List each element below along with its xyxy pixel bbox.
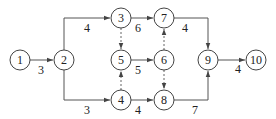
node-8: 8 bbox=[154, 90, 174, 110]
edge-label-8-9: 7 bbox=[192, 103, 198, 117]
edge-8-9 bbox=[174, 71, 208, 100]
svg-text:5: 5 bbox=[118, 53, 124, 67]
svg-text:4: 4 bbox=[118, 93, 124, 107]
node-9: 9 bbox=[198, 50, 218, 70]
svg-text:9: 9 bbox=[205, 53, 211, 67]
edge-2-4 bbox=[64, 70, 110, 100]
node-6: 6 bbox=[154, 50, 174, 70]
node-7: 7 bbox=[154, 8, 174, 28]
edge-7-9 bbox=[174, 18, 208, 49]
edge-label-4-8: 4 bbox=[135, 103, 141, 117]
node-10: 10 bbox=[246, 50, 266, 70]
network-diagram: 3 4 3 6 5 4 4 7 4 bbox=[0, 0, 276, 119]
node-1: 1 bbox=[10, 50, 30, 70]
node-3: 3 bbox=[111, 8, 131, 28]
edge-label-7-9: 4 bbox=[182, 21, 188, 35]
node-4: 4 bbox=[111, 90, 131, 110]
svg-text:3: 3 bbox=[118, 11, 124, 25]
edge-label-2-4: 3 bbox=[84, 103, 90, 117]
edge-label-9-10: 4 bbox=[235, 62, 241, 76]
svg-text:8: 8 bbox=[161, 93, 167, 107]
edge-label-2-3: 4 bbox=[84, 21, 90, 35]
edge-label-5-6: 5 bbox=[135, 63, 141, 77]
svg-text:10: 10 bbox=[250, 53, 262, 67]
svg-text:1: 1 bbox=[17, 53, 23, 67]
svg-text:7: 7 bbox=[161, 11, 167, 25]
node-5: 5 bbox=[111, 50, 131, 70]
edge-label-1-2: 3 bbox=[38, 63, 44, 77]
edge-label-3-7: 6 bbox=[135, 21, 141, 35]
svg-text:2: 2 bbox=[61, 53, 67, 67]
node-2: 2 bbox=[54, 50, 74, 70]
svg-text:6: 6 bbox=[161, 53, 167, 67]
